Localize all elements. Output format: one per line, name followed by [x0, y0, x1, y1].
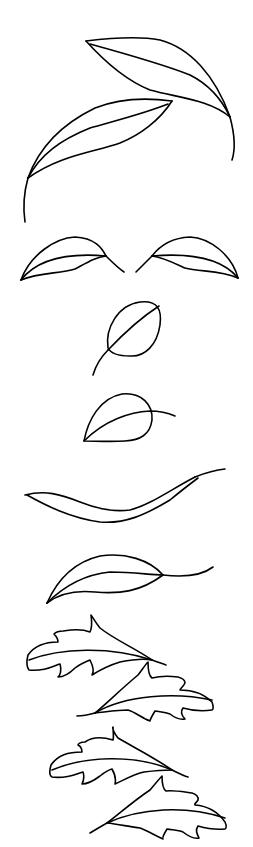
leaf-pair-left: [21, 237, 124, 280]
oak-leaf-3: [50, 727, 188, 784]
wavy-narrow-leaf: [25, 469, 225, 522]
oak-leaf-2: [77, 662, 213, 721]
leaf-drawing-svg: [0, 0, 253, 847]
long-leaf-top-left: [24, 99, 172, 222]
leaf-illustration: [0, 0, 253, 847]
leaf-pair-right: [136, 237, 238, 278]
oak-leaf-4: [90, 776, 226, 839]
round-leaf-upright: [93, 302, 160, 375]
round-leaf-tilted: [84, 394, 175, 442]
long-leaf-top-right: [86, 38, 234, 160]
leaf-with-stem: [47, 555, 213, 603]
oak-leaf-1: [27, 615, 166, 677]
